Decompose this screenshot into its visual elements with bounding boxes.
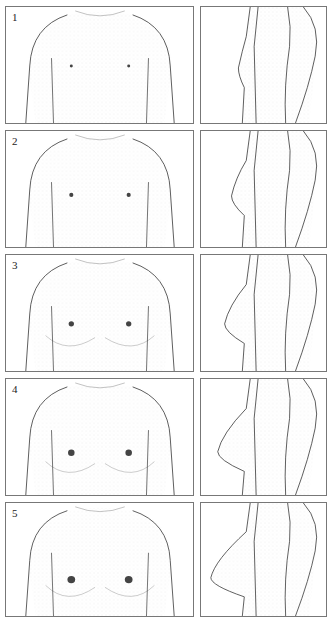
- stage-number: 4: [12, 383, 18, 395]
- front-torso-illustration: [6, 379, 193, 495]
- side-view-panel: [200, 6, 327, 124]
- side-view-panel: [200, 502, 327, 617]
- side-torso-illustration: [201, 7, 326, 123]
- front-view-panel: 4: [5, 378, 194, 496]
- nipple-right: [127, 65, 130, 68]
- side-torso-illustration: [201, 379, 326, 495]
- front-view-panel: 2: [5, 130, 194, 248]
- side-view-panel: [200, 254, 327, 372]
- side-view-panel: [200, 130, 327, 248]
- nipple-right: [125, 576, 133, 583]
- nipple-left: [70, 65, 73, 68]
- front-torso-illustration: [6, 131, 193, 247]
- nipple-right: [127, 193, 131, 197]
- side-torso-illustration: [201, 131, 326, 247]
- nipple-right: [125, 449, 132, 455]
- front-view-panel: 3: [5, 254, 194, 372]
- nipple-left: [67, 576, 75, 583]
- stage-number: 3: [12, 259, 18, 271]
- side-torso-illustration: [201, 255, 326, 371]
- nipple-left: [69, 321, 74, 326]
- front-torso-illustration: [6, 503, 193, 616]
- nipple-left: [69, 193, 73, 197]
- front-view-panel: 5: [5, 502, 194, 617]
- front-torso-illustration: [6, 255, 193, 371]
- stage-number: 5: [12, 507, 18, 519]
- front-view-panel: 1: [5, 6, 194, 124]
- stage-number: 2: [12, 135, 18, 147]
- nipple-left: [68, 449, 75, 455]
- stage-number: 1: [12, 11, 18, 23]
- front-torso-illustration: [6, 7, 193, 123]
- side-view-panel: [200, 378, 327, 496]
- nipple-right: [126, 321, 131, 326]
- side-torso-illustration: [201, 503, 326, 616]
